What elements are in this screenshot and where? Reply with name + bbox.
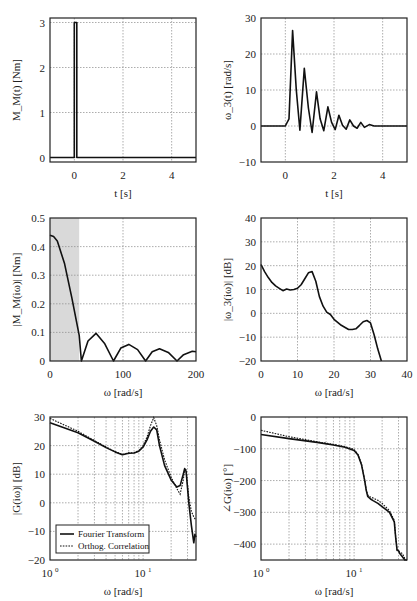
x-tick-label: 100 xyxy=(115,368,132,380)
y-tick-label: 0.3 xyxy=(31,269,45,281)
legend-entry: Fourier Transform xyxy=(78,529,144,539)
series-orthog-correlation xyxy=(261,430,407,560)
y-tick-label: −300 xyxy=(233,506,256,518)
x-tick-label: 30 xyxy=(365,368,377,380)
y-tick-label: −200 xyxy=(233,475,256,487)
x-axis-label: ω [rad/s] xyxy=(315,585,354,597)
bode-magnitude-chart: −20−100102030100101ω [rad/s]|G(iω)| [dB]… xyxy=(10,411,196,597)
y-tick-label: 3 xyxy=(40,17,46,29)
y-tick-label: −100 xyxy=(233,443,256,455)
y-axis-label: |G(iω)| [dB] xyxy=(10,462,23,515)
y-tick-label: −400 xyxy=(233,538,256,550)
x-tick-exponent: 0 xyxy=(55,566,59,574)
x-tick-label: 0 xyxy=(283,169,289,181)
x-tick-label: 2 xyxy=(120,169,126,181)
legend: Fourier TransformOrthog. Correlation xyxy=(56,525,149,553)
y-tick-label: 20 xyxy=(34,440,46,452)
y-tick-label: 0.1 xyxy=(31,326,45,338)
grid xyxy=(261,218,407,361)
y-tick-label: −10 xyxy=(28,525,46,537)
y-axis-label: ∠G(iω) [°] xyxy=(221,464,234,513)
shaded-band xyxy=(50,218,79,361)
series-fourier-transform xyxy=(261,435,407,561)
y-tick-label: 30 xyxy=(34,411,46,423)
y-tick-label: 0 xyxy=(40,497,46,509)
x-tick-label: 200 xyxy=(188,368,205,380)
y-tick-label: 10 xyxy=(245,84,257,96)
y-tick-label: 0 xyxy=(251,411,257,423)
y-axis-label: ω_3(t) [rad/s] xyxy=(221,60,234,120)
x-tick-label: 40 xyxy=(402,368,414,380)
y-tick-label: 0 xyxy=(40,152,46,164)
y-tick-label: 0 xyxy=(40,355,46,367)
y-axis-label: |ω_3(iω)| [dB] xyxy=(221,258,234,321)
x-tick-label: 4 xyxy=(169,169,175,181)
y-tick-label: −20 xyxy=(28,554,46,566)
y-tick-label: 1 xyxy=(40,107,46,119)
y-tick-label: 0 xyxy=(251,307,257,319)
x-tick-label: 20 xyxy=(329,368,341,380)
bode-phase-chart: −400−300−200−1000100101ω [rad/s]∠G(iω) [… xyxy=(221,411,407,597)
legend-entry: Orthog. Correlation xyxy=(78,541,149,551)
torque-time-chart: 0123024t [s]M_M(t) [Nm] xyxy=(10,17,196,200)
y-tick-label: 40 xyxy=(245,212,257,224)
x-tick-exponent: 1 xyxy=(359,566,363,574)
figure-canvas: 0123024t [s]M_M(t) [Nm]−100102030024t [s… xyxy=(0,0,417,601)
x-tick-label: 0 xyxy=(72,169,78,181)
speed-time-chart: −100102030024t [s]ω_3(t) [rad/s] xyxy=(221,12,407,199)
series--3-i- xyxy=(261,265,381,362)
x-tick-label: 10 xyxy=(346,567,358,579)
y-axis-label: M_M(t) [Nm] xyxy=(10,59,23,121)
x-tick-label: 10 xyxy=(292,368,304,380)
y-tick-label: −10 xyxy=(239,331,257,343)
x-axis-label: t [s] xyxy=(325,187,342,199)
y-tick-label: −10 xyxy=(239,156,257,168)
x-tick-label: 10 xyxy=(253,567,265,579)
y-tick-label: −20 xyxy=(239,355,257,367)
x-axis-label: ω [rad/s] xyxy=(104,585,143,597)
y-tick-label: 0.4 xyxy=(31,241,45,253)
x-tick-label: 2 xyxy=(331,169,337,181)
x-axis-label: ω [rad/s] xyxy=(315,386,354,398)
x-tick-label: 0 xyxy=(258,368,264,380)
x-axis-label: ω [rad/s] xyxy=(104,386,143,398)
x-axis-label: t [s] xyxy=(114,187,131,199)
y-tick-label: 20 xyxy=(245,48,257,60)
x-tick-label: 4 xyxy=(380,169,386,181)
y-tick-label: 30 xyxy=(245,236,257,248)
y-tick-label: 10 xyxy=(245,284,257,296)
x-tick-label: 0 xyxy=(47,368,53,380)
y-tick-label: 0.5 xyxy=(31,212,45,224)
grid xyxy=(50,18,196,162)
y-tick-label: 2 xyxy=(40,62,46,74)
y-tick-label: 20 xyxy=(245,260,257,272)
torque-spectrum-chart: 00.10.20.30.40.50100200ω [rad/s]|M_M(iω)… xyxy=(10,212,205,398)
x-tick-label: 10 xyxy=(42,567,54,579)
y-tick-label: 0.2 xyxy=(31,298,45,310)
series-orthog-correlation xyxy=(50,418,196,520)
speed-spectrum-chart: −20−10010203040010203040ω [rad/s]|ω_3(iω… xyxy=(221,212,413,398)
x-tick-exponent: 0 xyxy=(266,566,270,574)
y-tick-label: 0 xyxy=(251,120,257,132)
y-tick-label: 10 xyxy=(34,468,46,480)
grid xyxy=(261,18,407,162)
y-axis-label: |M_M(iω)| [Nm] xyxy=(10,253,23,327)
x-tick-label: 10 xyxy=(135,567,147,579)
y-tick-label: 30 xyxy=(245,12,257,24)
x-tick-exponent: 1 xyxy=(148,566,152,574)
